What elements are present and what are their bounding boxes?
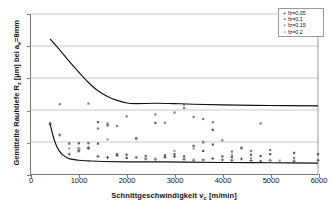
data-point xyxy=(164,122,166,124)
data-point xyxy=(240,157,243,160)
x-tick-label: 3000 xyxy=(155,177,195,185)
data-point xyxy=(193,116,195,118)
data-point xyxy=(231,154,233,156)
data-point xyxy=(78,142,80,144)
data-point xyxy=(212,129,214,131)
data-point xyxy=(269,159,271,161)
data-point xyxy=(250,150,252,152)
data-point xyxy=(116,125,118,127)
data-point xyxy=(292,160,295,163)
data-point xyxy=(182,158,185,161)
data-point xyxy=(173,111,175,113)
data-point xyxy=(58,133,61,136)
data-point xyxy=(183,155,185,157)
data-point xyxy=(279,159,281,161)
data-point xyxy=(97,127,99,129)
legend-marker-icon: + xyxy=(281,10,288,16)
data-point xyxy=(249,159,252,162)
data-point xyxy=(221,158,224,161)
data-point xyxy=(269,149,271,151)
data-point xyxy=(87,142,89,144)
data-point xyxy=(126,157,128,159)
data-point xyxy=(164,154,166,156)
data-point xyxy=(154,158,156,160)
data-point xyxy=(231,156,233,158)
data-point xyxy=(125,153,128,156)
data-point xyxy=(316,159,319,162)
data-point xyxy=(173,153,175,155)
data-point xyxy=(68,147,70,149)
data-point xyxy=(106,122,108,124)
data-point xyxy=(193,145,195,147)
data-point xyxy=(202,150,204,152)
legend-marker-icon: ▪ xyxy=(281,16,288,22)
data-point xyxy=(260,122,262,124)
x-tick-label: 2000 xyxy=(107,177,147,185)
data-point xyxy=(135,156,138,159)
data-point xyxy=(293,152,295,154)
y-tick-mark xyxy=(27,111,31,112)
data-point xyxy=(154,122,156,124)
data-point xyxy=(97,121,99,123)
legend-label: fz=0,05 xyxy=(288,10,306,16)
x-tick-label: 5000 xyxy=(251,177,291,185)
data-point xyxy=(96,155,99,158)
data-point xyxy=(221,155,223,157)
data-point xyxy=(250,154,252,156)
x-tick-label: 0 xyxy=(11,177,51,185)
data-point xyxy=(145,156,147,158)
data-point xyxy=(212,121,214,123)
y-tick-mark xyxy=(27,46,31,47)
legend-label: fz=0,15 xyxy=(288,22,306,28)
data-point xyxy=(173,155,176,158)
data-point xyxy=(202,118,204,120)
y-tick-mark xyxy=(27,143,31,144)
y-tick-mark xyxy=(27,78,31,79)
plot-canvas xyxy=(31,14,318,174)
data-point xyxy=(193,159,195,161)
data-point xyxy=(173,150,175,152)
data-point xyxy=(293,157,295,159)
data-point xyxy=(193,147,195,149)
data-point xyxy=(212,143,214,145)
data-point xyxy=(154,113,156,115)
trend-curves xyxy=(50,39,318,163)
data-point xyxy=(116,153,118,155)
data-point xyxy=(250,157,252,159)
data-point xyxy=(97,143,99,145)
x-tick-label: 4000 xyxy=(203,177,243,185)
data-point xyxy=(260,155,262,157)
y-tick-mark xyxy=(27,14,31,15)
data-point xyxy=(317,153,319,155)
data-point xyxy=(59,103,61,105)
data-point xyxy=(49,122,51,124)
data-point xyxy=(68,153,71,156)
data-point xyxy=(106,124,108,126)
legend-label: fz=0,1 xyxy=(288,16,303,22)
data-point xyxy=(87,103,89,105)
data-point xyxy=(202,158,205,161)
x-tick-label: 6000 xyxy=(299,177,331,185)
chart-legend: +fz=0,05▪fz=0,1▪fz=0,15▪fz=0,2 xyxy=(278,8,324,37)
data-point xyxy=(126,115,128,117)
legend-marker-icon: ▪ xyxy=(281,22,288,28)
legend-label: fz=0,2 xyxy=(288,29,303,35)
data-point xyxy=(269,153,271,155)
chart-figure: Gemittelte Rauhtiefe Rz [µm] bei ae=8mm … xyxy=(0,0,331,207)
data-point xyxy=(211,157,214,160)
x-axis-title: Schnittgeschwindigkeit vc [m/min] xyxy=(30,191,318,201)
data-point xyxy=(240,147,242,149)
data-point xyxy=(87,147,89,149)
plot-area: 012345 0100020003000400050006000 xyxy=(30,14,318,175)
legend-item: ▪fz=0,2 xyxy=(281,29,322,35)
data-point xyxy=(183,107,185,109)
data-point xyxy=(106,138,108,140)
data-point xyxy=(230,159,233,162)
legend-marker-icon: ▪ xyxy=(281,29,288,35)
scatter-points xyxy=(49,103,320,163)
x-tick-label: 1000 xyxy=(59,177,99,185)
data-point xyxy=(231,151,233,153)
data-point xyxy=(78,148,80,150)
data-point xyxy=(106,156,109,159)
data-point xyxy=(202,142,204,144)
